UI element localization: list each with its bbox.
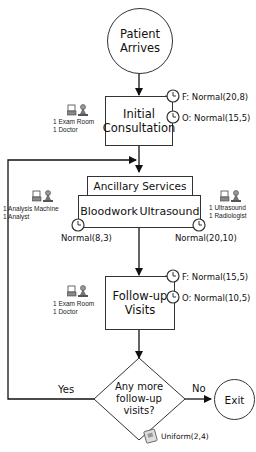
resource-icon [67, 103, 89, 117]
decision-label-line1: Any more [104, 381, 174, 393]
decision-any-more-visits: Any more follow-up visits? [104, 381, 174, 417]
start-label-line1: Patient [120, 27, 160, 41]
resource-analyst: 1 Analyst [3, 213, 59, 221]
followup-resources: 1 Exam Room 1 Doctor [53, 300, 94, 316]
resource-exam-room: 1 Exam Room [53, 300, 94, 308]
ancillary-services-header: Ancillary Services [87, 176, 193, 196]
start-node-patient-arrives: Patient Arrives [107, 8, 173, 74]
ultrasound-resources: 1 Ultrasound 1 Radiologist [209, 204, 247, 220]
clock-icon [166, 290, 180, 304]
resource-doctor: 1 Doctor [53, 308, 94, 316]
decision-label-line3: visits? [104, 405, 174, 417]
followup-label-line2: Visits [113, 303, 168, 317]
decision-label-line2: follow-up [104, 393, 174, 405]
resource-icon [220, 189, 242, 203]
clock-icon [71, 218, 85, 232]
clock-icon [166, 110, 180, 124]
bloodwork-resources: 1 Analysis Machine 1 Analyst [3, 205, 59, 221]
process-bloodwork: Bloodwork [78, 195, 140, 228]
resource-ultrasound: 1 Ultrasound [209, 204, 247, 212]
initial-time-other: O: Normal(15,5) [182, 113, 250, 123]
initial-resources: 1 Exam Room 1 Doctor [53, 118, 94, 134]
resource-icon [67, 284, 89, 298]
resource-exam-room: 1 Exam Room [53, 118, 94, 126]
bloodwork-time: Normal(8,3) [61, 233, 112, 243]
clock-icon [192, 218, 206, 232]
resource-analysis-machine: 1 Analysis Machine [3, 205, 59, 213]
yes-label: Yes [58, 384, 74, 395]
clock-icon [166, 89, 180, 103]
resource-doctor: 1 Doctor [53, 126, 94, 134]
initial-label-line1: Initial [103, 107, 175, 121]
bloodwork-label: Bloodwork [80, 205, 138, 218]
no-label: No [192, 383, 206, 394]
followup-time-other: O: Normal(10,5) [182, 293, 250, 303]
start-label-line2: Arrives [120, 41, 160, 55]
followup-time-first: F: Normal(15,5) [182, 272, 248, 282]
exit-node: Exit [214, 379, 255, 420]
process-initial-consultation: Initial Consultation [105, 96, 173, 146]
ancillary-header-label: Ancillary Services [94, 180, 187, 192]
resource-radiologist: 1 Radiologist [209, 212, 247, 220]
clock-icon [166, 269, 180, 283]
distribution-icon [143, 428, 159, 444]
followup-label-line1: Follow-up [113, 289, 168, 303]
process-followup-visits: Follow-up Visits [105, 276, 175, 330]
exit-label: Exit [225, 394, 245, 406]
decision-distribution: Uniform(2,4) [161, 432, 209, 442]
initial-time-first: F: Normal(20,8) [182, 92, 248, 102]
resource-icon [32, 189, 54, 203]
initial-label-line2: Consultation [103, 121, 175, 135]
ultrasound-label: Ultrasound [139, 205, 199, 218]
ultrasound-time: Normal(20,10) [175, 233, 237, 243]
